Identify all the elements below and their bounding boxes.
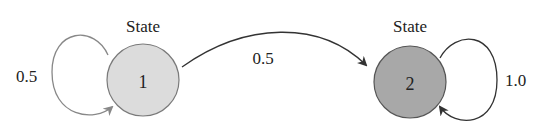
state-2: State 2 bbox=[374, 17, 446, 118]
self-loop-1-arrow bbox=[52, 35, 112, 115]
state-2-label: 2 bbox=[406, 74, 415, 94]
state-2-title: State bbox=[393, 17, 427, 36]
transition-1-2-prob: 0.5 bbox=[252, 49, 273, 68]
markov-diagram: 0.5 State 1 0.5 State 2 1.0 bbox=[0, 0, 543, 129]
transition-1-2-arrow bbox=[182, 32, 366, 67]
self-loop-2-prob: 1.0 bbox=[505, 71, 526, 90]
state-1: State 1 bbox=[107, 17, 179, 116]
self-loop-1-prob: 0.5 bbox=[16, 67, 37, 86]
state-1-label: 1 bbox=[139, 72, 148, 92]
self-loop-2-arrow bbox=[440, 39, 497, 120]
state-1-title: State bbox=[126, 17, 160, 36]
